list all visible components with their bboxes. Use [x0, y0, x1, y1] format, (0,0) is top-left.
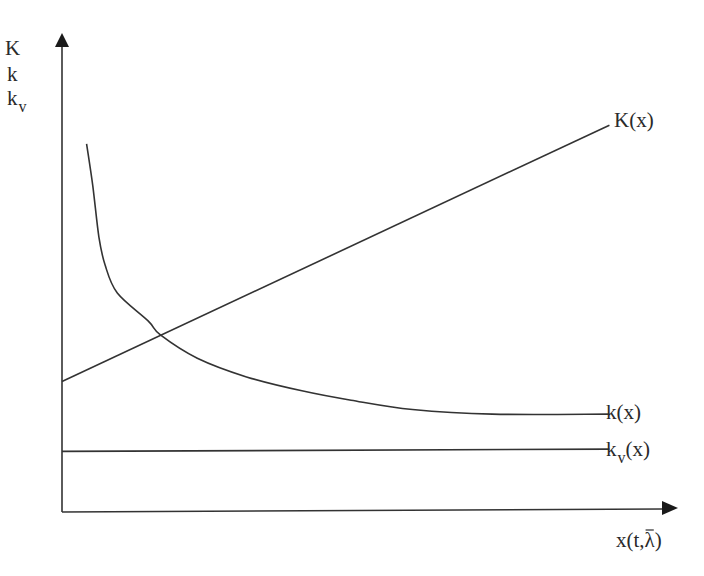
y-axis-label-k: k	[7, 62, 18, 86]
y-axis-label-kv: kv	[7, 86, 27, 115]
series-label-k: k(x)	[606, 400, 641, 424]
diagram-canvas: K k kv K(x) k(x) kv(x) x(t,λ)	[0, 0, 704, 576]
y-axis-label-K: K	[5, 36, 20, 60]
y-axis-label-kv-subscript: v	[19, 98, 27, 115]
series-label-kv-subscript: v	[618, 449, 626, 466]
series-label-kv: kv(x)	[606, 437, 650, 466]
series-line-K	[62, 125, 609, 381]
x-axis-label-base: x(t,	[616, 528, 645, 552]
series-label-kv-tail: (x)	[626, 437, 651, 461]
x-axis-label-close: )	[655, 528, 662, 552]
series-label-K: K(x)	[614, 108, 654, 132]
x-axis-label: x(t,λ)	[616, 528, 662, 552]
series-label-kv-base: k	[606, 437, 617, 461]
y-axis-label-kv-base: k	[7, 86, 18, 110]
x-axis	[62, 509, 662, 512]
y-axis-arrowhead	[55, 33, 69, 47]
series-curve-k	[87, 144, 610, 415]
x-axis-arrowhead	[662, 501, 678, 515]
series-line-kv	[62, 449, 609, 451]
